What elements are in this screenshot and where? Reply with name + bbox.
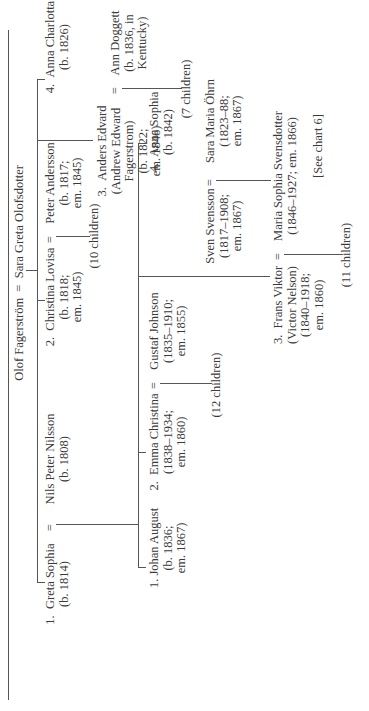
gen2-drop-3 <box>138 276 270 277</box>
greta-descent-line <box>56 524 138 525</box>
cross-reference: [See chart 6] <box>312 101 326 191</box>
person-anna-sophia: 4. Anna Sophia (b. 1842) <box>148 87 175 177</box>
gen2-drop-1 <box>138 567 146 568</box>
christina-descent-line <box>56 236 90 237</box>
person-johan-august: 1. Johan August (b. 1836; em. 1867) <box>148 503 189 593</box>
sven-descent-line <box>216 180 271 181</box>
gen2-sibling-bar <box>138 144 139 568</box>
person-sven-svensson: Sven Svensson (1817–1908; em. 1867) <box>204 181 245 271</box>
children-note: (12 children) <box>210 339 224 431</box>
gen2-drop-4 <box>138 143 146 144</box>
person-emma-christina: 2. Emma Christina (1838–1934; em. 1860) <box>148 387 189 497</box>
gen1-sibling-bar <box>37 80 38 583</box>
children-note: (7 children) <box>180 47 194 131</box>
person-maria-sophia-svensdotter: Maria Sophia Svensdotter (1846–1927; em.… <box>272 101 299 251</box>
family-tree-chart: Olof Fagerström = Sara Greta Olofsdotter… <box>0 0 369 711</box>
person-nils-peter-nilsson: Nils Peter Nilsson (b. 1808) <box>44 399 71 519</box>
person-ann-doggett: Ann Doggett (b. 1836, in Kentucky) <box>109 3 150 83</box>
person-anna-charlotta: 4. Anna Charlotta (b. 1826) <box>44 0 71 95</box>
marriage-symbol: = <box>44 236 58 243</box>
person-gustaf-johnson: Gustaf Johnson (1835–1910; em. 1855) <box>148 281 189 381</box>
person-peter-andersson: Peter Andersson (b. 1817; em. 1845) <box>44 133 85 233</box>
person-greta-sophia: 1. Greta Sophia (b. 1814) <box>44 529 71 639</box>
emma-descent-line <box>160 383 212 384</box>
marriage-symbol: = <box>44 524 58 531</box>
marriage-symbol: = <box>109 87 123 94</box>
person-sara-maria-ohrn: Sara Maria Öhrn (1823–88; em. 1867) <box>204 66 245 176</box>
root-descent-line <box>26 270 37 271</box>
gen2-drop-2 <box>138 452 146 453</box>
children-note: (11 children) <box>340 209 354 301</box>
frans-descent-line <box>284 254 342 255</box>
marriage-symbol: = <box>12 285 26 292</box>
root-husband: Olof Fagerström <box>12 298 26 381</box>
person-frans-viktor: 3. Frans Viktor (Victor Nelson) (1840–19… <box>272 255 326 355</box>
root-wife: Sara Greta Olofsdotter <box>12 165 26 278</box>
top-rule <box>8 30 9 700</box>
root-couple: Olof Fagerström = Sara Greta Olofsdotter <box>13 153 27 393</box>
person-christina-lovisa: 2. Christina Lovisa (b. 1818; em. 1845) <box>44 241 85 353</box>
